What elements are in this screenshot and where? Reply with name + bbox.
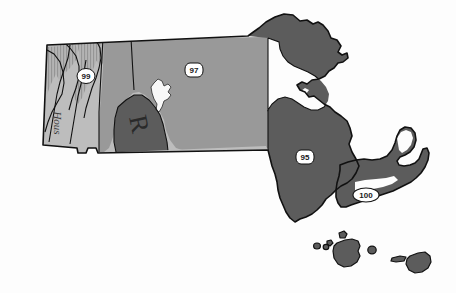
zone-badge-100-text: 100: [359, 191, 373, 200]
zone-badge-97-text: 97: [190, 66, 199, 75]
islands-group: [314, 231, 431, 273]
zone-badge-97[interactable]: 97: [185, 63, 203, 77]
map-container: Hous R 99 97 95 100: [0, 0, 456, 293]
zone-badge-99-text: 99: [82, 72, 91, 81]
zone-badge-100[interactable]: 100: [353, 188, 379, 202]
river-label-housatonic: Hous: [52, 110, 64, 134]
zone-badge-95[interactable]: 95: [296, 150, 314, 164]
zone-badge-99[interactable]: 99: [77, 69, 95, 84]
river-label-text: Hous: [52, 110, 64, 134]
zone-badge-95-text: 95: [301, 153, 310, 162]
massachusetts-map: Hous R 99 97 95 100: [0, 0, 456, 293]
